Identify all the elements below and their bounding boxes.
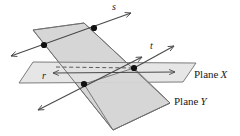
label-line-r: r	[42, 71, 46, 81]
point-on-line-s-left	[41, 42, 47, 48]
point-on-line-s-right	[91, 25, 97, 31]
label-plane-y: PlaneY	[174, 96, 207, 107]
geometry-diagram: s t r PlaneX PlaneY	[0, 0, 240, 136]
label-line-s: s	[112, 2, 116, 12]
point-intersection-lower	[81, 81, 87, 87]
label-line-t: t	[150, 41, 153, 51]
label-plane-x-word: Plane	[194, 68, 218, 80]
point-intersection-t	[131, 65, 137, 71]
label-plane-y-name: Y	[198, 95, 206, 107]
label-plane-y-word: Plane	[174, 95, 198, 107]
label-plane-x-name: X	[218, 68, 227, 80]
label-plane-x: PlaneX	[194, 69, 227, 80]
